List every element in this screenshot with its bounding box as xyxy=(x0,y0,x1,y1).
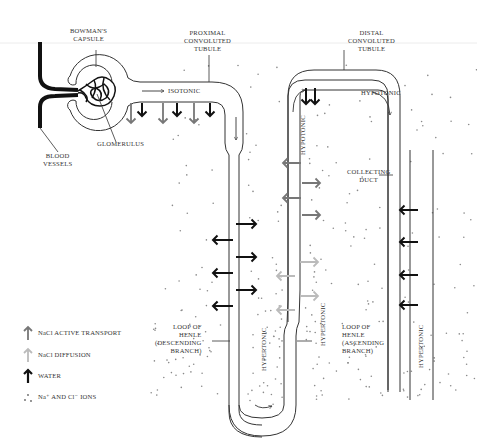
legend-label: NaCl DIFFUSION xyxy=(38,351,91,358)
label-line: TUBULE xyxy=(184,45,231,53)
nacl-diffusion-arrow-icon xyxy=(22,347,34,363)
water-arrow xyxy=(213,236,233,245)
label-line: VESSELS xyxy=(43,160,72,168)
label-bowmans-capsule: BOWMAN'S CAPSULE xyxy=(70,27,107,43)
nacl-active-transport-arrow-icon xyxy=(22,325,34,341)
nacl-active-transport-arrow xyxy=(159,103,168,123)
nacl-active-transport-arrow xyxy=(190,103,199,123)
blood-vessels-leader xyxy=(40,128,58,152)
nacl-diffusion-arrow xyxy=(300,292,318,301)
label-line: (ASCENDING xyxy=(342,339,384,347)
legend-label: NaCl ACTIVE TRANSPORT xyxy=(38,329,121,336)
glomerulus xyxy=(78,77,115,106)
loop-of-henle xyxy=(229,80,388,437)
label-line: CAPSULE xyxy=(70,35,107,43)
water-arrow xyxy=(213,269,233,278)
label-distal-tubule: DISTAL CONVOLUTED TUBULE xyxy=(348,29,395,53)
proximal-inner-wall xyxy=(140,102,262,437)
water-arrow xyxy=(206,103,215,116)
label-line: COLLECTING xyxy=(347,168,390,176)
label-line: BLOOD xyxy=(43,152,72,160)
label-hypotonic-top: HYPOTONIC xyxy=(361,89,401,97)
nacl-active-transport-arrow xyxy=(302,179,320,188)
label-line: DISTAL xyxy=(348,29,395,37)
ascending-outer xyxy=(229,90,388,436)
transport-arrows xyxy=(127,88,419,315)
water-arrow xyxy=(400,238,418,247)
water-arrow-icon xyxy=(22,368,34,384)
ascending-limb xyxy=(229,70,400,436)
legend-item-diffusion: NaCl DIFFUSION xyxy=(22,347,182,363)
nacl-active-transport-arrow xyxy=(283,159,301,168)
water-arrow xyxy=(400,271,418,280)
label-hypertonic-collecting: HYPERTONIC xyxy=(417,325,424,368)
legend-item-ions: Na⁺ AND Cl⁻ IONS xyxy=(22,389,182,405)
water-arrow xyxy=(400,206,418,215)
label-hypotonic-vertical: HYPOTONIC xyxy=(299,115,306,155)
ion-dots-icon xyxy=(22,389,34,405)
nacl-active-transport-arrow xyxy=(283,194,301,203)
flow-arrow-loop xyxy=(255,405,272,408)
nacl-diffusion-arrow xyxy=(300,258,318,267)
label-line: LOOP OF xyxy=(342,323,384,331)
nacl-active-transport-arrow xyxy=(302,211,320,220)
label-line: TUBULE xyxy=(348,45,395,53)
label-line: CONVOLUTED xyxy=(348,37,395,45)
label-collecting-duct: COLLECTING DUCT xyxy=(347,168,390,184)
label-hypertonic-ascending: HYPERTONIC xyxy=(319,303,326,346)
label-isotonic: ISOTONIC xyxy=(168,87,200,95)
label-line: PROXIMAL xyxy=(184,29,231,37)
label-line: BRANCH) xyxy=(342,347,384,355)
label-blood-vessels: BLOOD VESSELS xyxy=(43,152,72,168)
nacl-diffusion-arrow xyxy=(277,306,295,315)
label-glomerulus: GLOMERULUS xyxy=(97,140,144,148)
label-hypertonic-descending: HYPERTONIC xyxy=(260,328,267,371)
glomerulus-leader xyxy=(97,94,116,142)
water-arrow xyxy=(138,103,147,116)
legend-label: WATER xyxy=(38,372,61,379)
legend-item-water: WATER xyxy=(22,368,182,384)
label-line: DUCT xyxy=(347,176,390,184)
water-arrow xyxy=(173,103,182,116)
label-line: HENLE xyxy=(342,331,384,339)
water-arrow xyxy=(213,302,233,311)
legend-item-active-transport: NaCl ACTIVE TRANSPORT xyxy=(22,325,182,341)
label-line: BOWMAN'S xyxy=(70,27,107,35)
label-loop-ascending: LOOP OF HENLE (ASCENDING BRANCH) xyxy=(342,323,384,355)
nacl-diffusion-arrow xyxy=(277,272,295,281)
label-line: CONVOLUTED xyxy=(184,37,231,45)
legend-label: Na⁺ AND Cl⁻ IONS xyxy=(38,393,96,401)
label-proximal-tubule: PROXIMAL CONVOLUTED TUBULE xyxy=(184,29,231,53)
